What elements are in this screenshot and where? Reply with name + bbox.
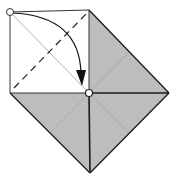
start-point-circle-icon bbox=[7, 9, 14, 16]
origami-diagram bbox=[0, 0, 174, 183]
vertical-edge-lower bbox=[89, 93, 90, 173]
center-point-circle-icon bbox=[86, 90, 93, 97]
diagram-canvas bbox=[0, 0, 174, 183]
